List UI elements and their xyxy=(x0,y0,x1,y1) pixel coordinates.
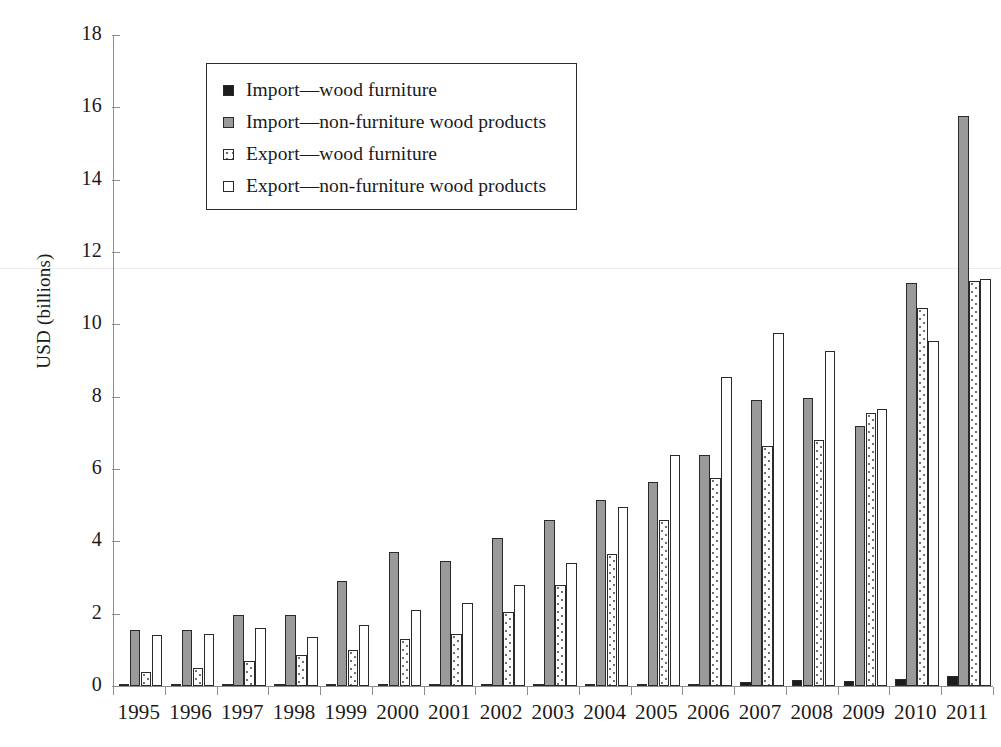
bar xyxy=(814,440,825,686)
bar xyxy=(296,655,307,686)
legend-swatch-icon xyxy=(223,85,234,96)
x-tick-label: 2000 xyxy=(372,700,424,725)
bar xyxy=(596,500,607,686)
x-tick-mark xyxy=(320,687,321,695)
x-tick-label: 1999 xyxy=(320,700,372,725)
bar xyxy=(637,684,648,686)
x-tick-mark xyxy=(217,687,218,695)
x-tick-label: 2010 xyxy=(889,700,941,725)
bar xyxy=(803,398,814,686)
bar xyxy=(514,585,525,686)
legend-item: Export—non-furniture wood products xyxy=(223,170,546,202)
bar xyxy=(481,684,492,686)
x-tick-mark xyxy=(475,687,476,695)
bar xyxy=(555,585,566,686)
y-tick: 10 xyxy=(60,324,120,325)
bar xyxy=(152,635,163,686)
bar xyxy=(429,684,440,686)
x-tick-label: 2011 xyxy=(941,700,993,725)
bar xyxy=(566,563,577,686)
x-tick-mark xyxy=(786,687,787,695)
x-tick-mark xyxy=(838,687,839,695)
bar xyxy=(773,333,784,686)
bar xyxy=(307,637,318,686)
bar-group xyxy=(119,35,163,686)
y-tick: 18 xyxy=(60,35,120,36)
bar xyxy=(348,650,359,686)
y-tick: 8 xyxy=(60,397,120,398)
bar xyxy=(222,684,233,686)
bar-group xyxy=(844,35,888,686)
legend-item: Export—wood furniture xyxy=(223,138,437,170)
bar xyxy=(285,615,296,686)
y-tick: 6 xyxy=(60,469,120,470)
bar xyxy=(792,680,803,686)
legend-swatch-icon xyxy=(223,149,234,160)
bar xyxy=(182,630,193,686)
bar-group xyxy=(947,35,991,686)
x-tick-label: 2001 xyxy=(424,700,476,725)
bar xyxy=(844,681,855,686)
bar xyxy=(825,351,836,686)
bar xyxy=(877,409,888,686)
y-tick-label: 14 xyxy=(58,167,102,190)
bar xyxy=(947,676,958,686)
x-tick-label: 2007 xyxy=(734,700,786,725)
bar xyxy=(244,661,255,686)
bar-group xyxy=(585,35,629,686)
bar xyxy=(274,684,285,686)
bar xyxy=(648,482,659,686)
legend-label: Import—non-furniture wood products xyxy=(246,111,546,133)
bar-chart-figure: USD (billions) 024681012141618 199519961… xyxy=(0,0,1001,747)
bar xyxy=(389,552,400,686)
x-tick-mark xyxy=(372,687,373,695)
bar xyxy=(585,684,596,686)
x-tick-label: 2005 xyxy=(631,700,683,725)
bar-group xyxy=(688,35,732,686)
bar xyxy=(400,639,411,686)
bar xyxy=(607,554,618,686)
y-tick-label: 4 xyxy=(58,528,102,551)
x-tick-label: 2008 xyxy=(786,700,838,725)
y-tick-label: 16 xyxy=(58,94,102,117)
bar xyxy=(326,684,337,686)
bar xyxy=(544,520,555,686)
y-tick-label: 0 xyxy=(58,673,102,696)
x-tick-label: 1998 xyxy=(268,700,320,725)
x-tick-label: 1996 xyxy=(165,700,217,725)
bar xyxy=(659,520,670,686)
x-axis-line xyxy=(113,686,993,687)
y-tick: 12 xyxy=(60,252,120,253)
x-tick-mark xyxy=(424,687,425,695)
bar xyxy=(688,684,699,686)
bar xyxy=(855,426,866,686)
y-axis-title: USD (billions) xyxy=(33,201,55,421)
y-tick-label: 2 xyxy=(58,601,102,624)
bar-group xyxy=(637,35,681,686)
bar xyxy=(378,684,389,686)
x-tick-mark xyxy=(682,687,683,695)
y-tick-label: 12 xyxy=(58,239,102,262)
bar-group xyxy=(792,35,836,686)
x-tick-label: 2009 xyxy=(838,700,890,725)
x-tick-label: 2002 xyxy=(475,700,527,725)
bar xyxy=(119,684,130,686)
x-tick-label: 2004 xyxy=(579,700,631,725)
bar xyxy=(670,455,681,686)
bar xyxy=(337,581,348,686)
x-tick-label: 1997 xyxy=(217,700,269,725)
bar xyxy=(969,281,980,686)
legend-label: Import—wood furniture xyxy=(246,79,437,101)
bar xyxy=(492,538,503,686)
bar xyxy=(699,455,710,686)
y-tick: 14 xyxy=(60,180,120,181)
bar xyxy=(503,612,514,686)
bar xyxy=(171,684,182,686)
bar xyxy=(618,507,629,686)
x-tick-mark xyxy=(579,687,580,695)
bar xyxy=(762,446,773,687)
y-tick-label: 10 xyxy=(58,311,102,334)
x-tick-mark xyxy=(993,687,994,695)
y-tick: 0 xyxy=(60,686,120,687)
y-tick: 4 xyxy=(60,541,120,542)
